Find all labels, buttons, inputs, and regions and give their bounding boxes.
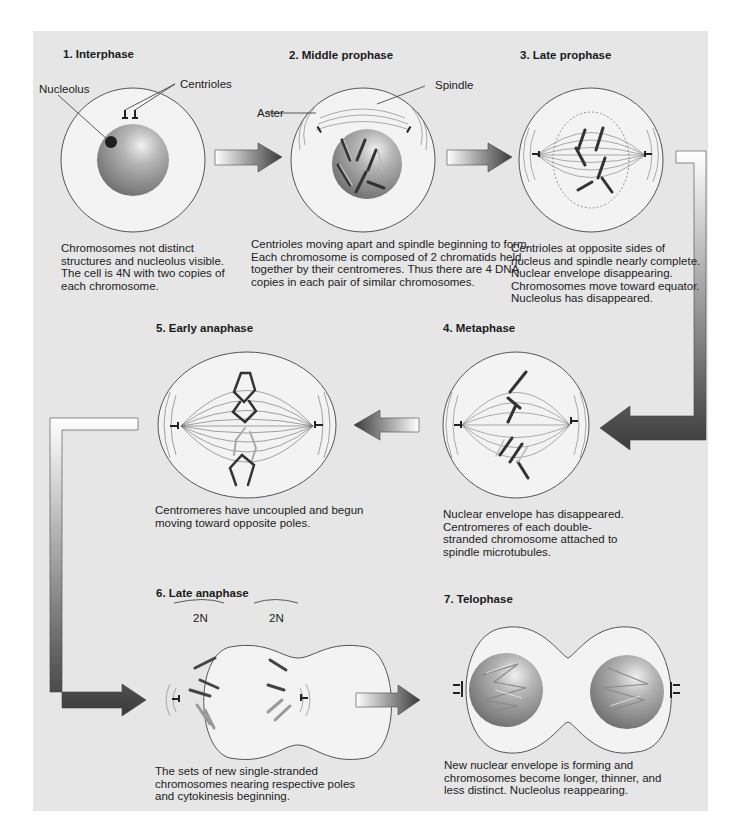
arrow-stage2-to-stage3-icon [447, 143, 512, 172]
stage-5-title: 5. Early anaphase [156, 322, 253, 334]
stage-3-title: 3. Late prophase [520, 49, 611, 61]
stage-4-metaphase-cell [443, 352, 589, 498]
nucleus-left-icon [469, 653, 543, 727]
stage-7-caption: New nuclear envelope is forming and chro… [444, 759, 661, 797]
nucleolus-label: Nucleolus [39, 83, 90, 95]
mitosis-diagram-art [0, 0, 738, 837]
stage-4-caption: Nuclear envelope has disappeared. Centro… [443, 508, 624, 558]
stage-3-late-prophase-cell [519, 88, 663, 232]
stage-2-middle-prophase-cell [265, 86, 435, 232]
stage-7-title: 7. Telophase [444, 593, 513, 605]
stage-2-caption: Centrioles moving apart and spindle begi… [251, 238, 530, 288]
stage-1-interphase-cell [58, 84, 205, 232]
arrow-stage1-to-stage2-icon [215, 143, 282, 172]
spindle-label: Spindle [435, 79, 473, 91]
2n-bracket-right [254, 600, 298, 604]
2n-label-right: 2N [269, 612, 284, 624]
stage-1-caption: Chromosomes not distinct structures and … [61, 242, 225, 292]
stage-5-caption: Centromeres have uncoupled and begun mov… [155, 504, 363, 529]
2n-bracket-left [174, 600, 224, 604]
aster-label: Aster [257, 107, 284, 119]
stage-6-caption: The sets of new single-stranded chromoso… [155, 765, 355, 803]
centrioles-label: Centrioles [180, 78, 232, 90]
stage-5-early-anaphase-cell [158, 352, 336, 498]
nucleus-right-icon [590, 655, 664, 729]
arrow-stage4-to-stage5-icon [354, 410, 419, 440]
2n-label-left: 2N [193, 612, 208, 624]
stage-2-title: 2. Middle prophase [289, 49, 393, 61]
arrow-stage5-to-stage6-icon [50, 418, 146, 716]
stage-7-telophase-cell [453, 627, 680, 753]
stage-4-title: 4. Metaphase [443, 322, 515, 334]
nucleolus-icon [105, 136, 117, 148]
stage-1-title: 1. Interphase [63, 48, 134, 60]
stage-6-title: 6. Late anaphase [156, 587, 249, 599]
stage-3-caption: Centrioles at opposite sides of nucleus … [511, 242, 700, 305]
